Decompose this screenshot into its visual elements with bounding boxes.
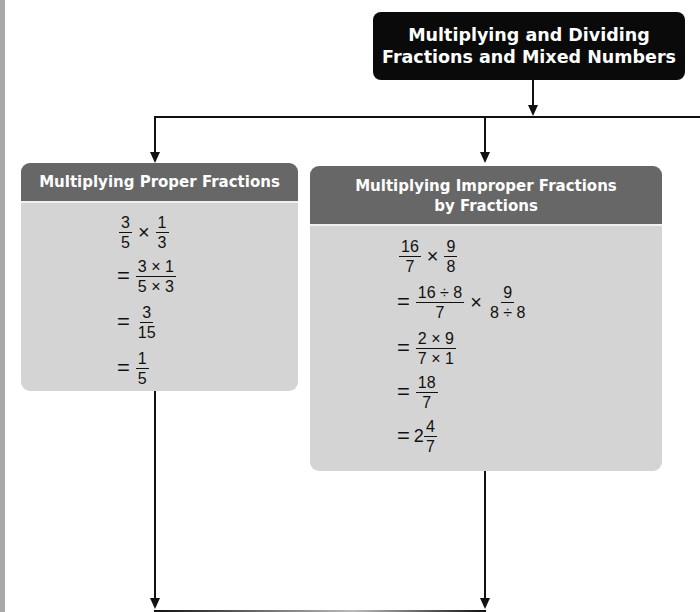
numerator: 1 bbox=[156, 214, 169, 233]
root-connector-vertical bbox=[532, 80, 534, 106]
root-node: Multiplying and Dividing Fractions and M… bbox=[373, 12, 685, 80]
branch-right-vertical bbox=[484, 116, 486, 154]
fraction: 3 × 15 × 3 bbox=[136, 258, 176, 295]
fraction: 16 ÷ 87 bbox=[416, 284, 464, 321]
denominator: 7 bbox=[424, 437, 437, 455]
numerator: 3 × 1 bbox=[136, 258, 176, 277]
card-title: Multiplying Proper Fractions bbox=[39, 173, 280, 191]
denominator: 3 bbox=[156, 233, 169, 251]
fraction: 98 bbox=[444, 238, 457, 275]
equals-sign: = bbox=[397, 423, 410, 449]
numerator: 4 bbox=[424, 418, 437, 437]
mixed-number-whole: 2 bbox=[414, 426, 424, 447]
branch-left-vertical bbox=[154, 116, 156, 154]
card-title-line2: by Fractions bbox=[310, 196, 662, 216]
numerator: 16 ÷ 8 bbox=[416, 284, 464, 303]
fraction: 187 bbox=[416, 374, 438, 411]
math-step: = 2 47 bbox=[397, 414, 662, 458]
root-title-line2: Fractions and Mixed Numbers bbox=[373, 46, 685, 68]
equals-sign: = bbox=[397, 379, 410, 405]
card-body: 167 × 98 = 16 ÷ 87 × 98 ÷ 8 = 2 × 97 × 1… bbox=[310, 226, 662, 458]
denominator: 7 bbox=[434, 303, 447, 321]
denominator: 8 ÷ 8 bbox=[488, 303, 527, 321]
math-step: 35 × 13 bbox=[117, 211, 298, 253]
card-header: Multiplying Proper Fractions bbox=[21, 163, 298, 203]
denominator: 7 bbox=[420, 393, 433, 411]
operator: × bbox=[138, 221, 150, 244]
numerator: 3 bbox=[119, 214, 132, 233]
fraction: 13 bbox=[156, 214, 169, 251]
numerator: 3 bbox=[140, 304, 153, 323]
root-title-line1: Multiplying and Dividing bbox=[373, 24, 685, 46]
numerator: 2 × 9 bbox=[416, 330, 456, 349]
equals-sign: = bbox=[397, 289, 410, 315]
equals-sign: = bbox=[117, 355, 130, 381]
fraction: 167 bbox=[399, 238, 421, 275]
math-step: = 15 bbox=[117, 345, 298, 391]
numerator: 9 bbox=[501, 284, 514, 303]
math-step: = 187 bbox=[397, 370, 662, 414]
fraction: 315 bbox=[136, 304, 158, 341]
card-header: Multiplying Improper Fractions by Fracti… bbox=[310, 166, 662, 226]
card-multiplying-proper-fractions: Multiplying Proper Fractions 35 × 13 = 3… bbox=[21, 163, 298, 391]
fraction: 35 bbox=[119, 214, 132, 251]
fraction: 2 × 97 × 1 bbox=[416, 330, 456, 367]
arrow-down-icon bbox=[150, 152, 160, 163]
math-step: = 16 ÷ 87 × 98 ÷ 8 bbox=[397, 278, 662, 326]
denominator: 5 bbox=[119, 233, 132, 251]
right-card-down-connector bbox=[484, 471, 486, 600]
equals-sign: = bbox=[117, 263, 130, 289]
numerator: 1 bbox=[136, 350, 149, 369]
math-step: = 315 bbox=[117, 299, 298, 345]
denominator: 5 × 3 bbox=[136, 277, 176, 295]
operator: × bbox=[470, 291, 482, 314]
arrow-down-icon bbox=[480, 152, 490, 163]
math-step: = 3 × 15 × 3 bbox=[117, 253, 298, 299]
fraction: 47 bbox=[424, 418, 437, 455]
numerator: 18 bbox=[416, 374, 438, 393]
card-body: 35 × 13 = 3 × 15 × 3 = 315 = 15 bbox=[21, 203, 298, 391]
denominator: 8 bbox=[444, 257, 457, 275]
arrow-down-icon bbox=[480, 598, 490, 609]
fraction: 98 ÷ 8 bbox=[488, 284, 527, 321]
equals-sign: = bbox=[397, 335, 410, 361]
card-title-line1: Multiplying Improper Fractions bbox=[310, 176, 662, 196]
card-multiplying-improper-fractions: Multiplying Improper Fractions by Fracti… bbox=[310, 166, 662, 471]
numerator: 16 bbox=[399, 238, 421, 257]
page-edge-bar bbox=[0, 0, 5, 612]
numerator: 9 bbox=[444, 238, 457, 257]
equals-sign: = bbox=[117, 309, 130, 335]
horizontal-branch-line bbox=[154, 116, 700, 118]
fraction: 15 bbox=[136, 350, 149, 387]
denominator: 7 × 1 bbox=[416, 349, 456, 367]
operator: × bbox=[427, 245, 439, 268]
denominator: 15 bbox=[136, 323, 158, 341]
denominator: 7 bbox=[403, 257, 416, 275]
denominator: 5 bbox=[136, 369, 149, 387]
arrow-down-icon bbox=[528, 105, 538, 116]
left-card-down-connector bbox=[154, 391, 156, 600]
math-step: = 2 × 97 × 1 bbox=[397, 326, 662, 370]
arrow-down-icon bbox=[150, 598, 160, 609]
math-step: 167 × 98 bbox=[397, 234, 662, 278]
